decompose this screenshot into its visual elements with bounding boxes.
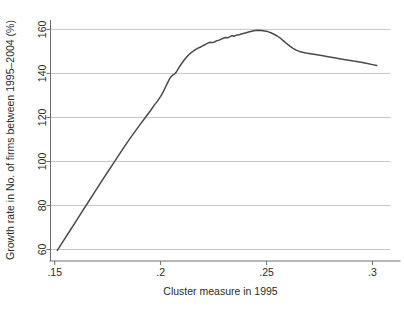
y-axis-title: Growth rate in No. of firms between 1995… [4, 20, 16, 260]
x-tick-label-p15: .15 [47, 266, 62, 278]
y-tick-label-100: 100 [37, 153, 49, 171]
x-tick-label-p2: .2 [156, 266, 165, 278]
y-tick-label-60: 60 [37, 244, 49, 256]
y-tick-label-140: 140 [37, 65, 49, 83]
y-tick-label-120: 120 [37, 109, 49, 127]
figure-caption-fragment [6, 297, 398, 308]
growth-rate-line-chart: 6080100120140160 .15.2.25.3 Growth rate … [0, 0, 404, 309]
x-axis-title: Cluster measure in 1995 [163, 285, 278, 297]
y-tick-label-160: 160 [37, 20, 49, 38]
figure-container: 6080100120140160 .15.2.25.3 Growth rate … [0, 0, 404, 309]
x-tick-label-p3: .3 [368, 266, 377, 278]
y-tick-label-80: 80 [37, 199, 49, 211]
x-tick-label-p25: .25 [259, 266, 274, 278]
